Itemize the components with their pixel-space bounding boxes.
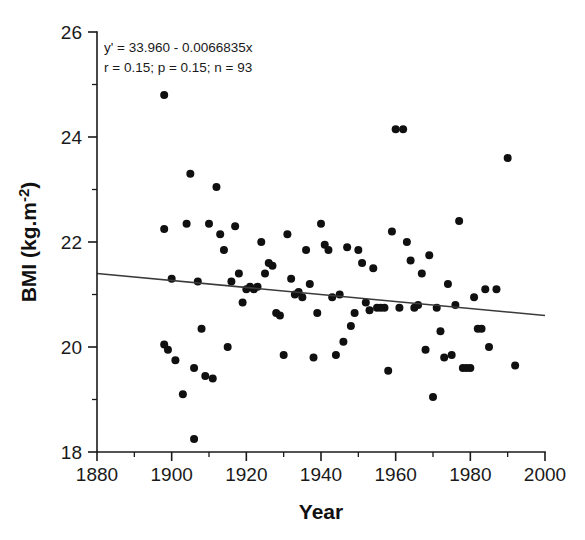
data-point [492,285,500,293]
data-point [343,243,351,251]
data-point [351,309,359,317]
data-point [190,435,198,443]
data-point [212,183,220,191]
data-point [164,346,172,354]
data-point [209,375,217,383]
data-point [205,220,213,228]
data-point [317,220,325,228]
data-point [407,256,415,264]
data-point [380,304,388,312]
data-point [283,230,291,238]
data-point [470,293,478,301]
data-point [429,393,437,401]
data-point [444,280,452,288]
data-point [268,262,276,270]
data-point [239,298,247,306]
data-point [186,170,194,178]
data-point [478,325,486,333]
data-point [227,277,235,285]
data-point [485,343,493,351]
data-point [403,238,411,246]
data-point [369,264,377,272]
data-point [414,301,422,309]
scatter-points-group [160,91,519,443]
x-tick-label: 1920 [225,464,267,485]
data-point [358,259,366,267]
data-point [328,293,336,301]
data-point [395,304,403,312]
y-axis-ticks-group: 1820222426 [61,22,97,463]
x-tick-label: 1980 [449,464,491,485]
chart-canvas: y' = 33.960 - 0.0066835x r = 0.15; p = 0… [0,0,585,540]
data-point [440,354,448,362]
x-tick-label: 1960 [375,464,417,485]
data-point [313,309,321,317]
data-point [511,361,519,369]
data-point [422,346,430,354]
data-point [448,351,456,359]
data-point [425,251,433,259]
data-point [384,367,392,375]
data-point [216,230,224,238]
regression-line [97,274,545,316]
bmi-year-scatter-figure: y' = 33.960 - 0.0066835x r = 0.15; p = 0… [0,0,585,540]
data-point [339,338,347,346]
data-point [481,285,489,293]
y-axis-title-group: BMI (kg.m-2) [15,182,40,303]
data-point [235,270,243,278]
data-point [466,364,474,372]
x-tick-label: 1900 [151,464,193,485]
data-point [194,277,202,285]
y-axis-title: BMI (kg.m-2) [15,182,40,303]
data-point [190,364,198,372]
data-point [324,246,332,254]
data-point [171,356,179,364]
y-tick-label: 26 [61,22,82,43]
data-point [261,270,269,278]
y-tick-label: 24 [61,127,83,148]
x-tick-label: 1880 [76,464,118,485]
data-point [183,220,191,228]
data-point [179,390,187,398]
regression-line-group [97,274,545,316]
data-point [276,312,284,320]
data-point [280,351,288,359]
data-point [399,125,407,133]
data-point [332,351,340,359]
data-point [220,246,228,254]
data-point [392,125,400,133]
data-point [504,154,512,162]
data-point [310,354,318,362]
regression-equation-annotation: y' = 33.960 - 0.0066835x [104,40,253,55]
data-point [198,325,206,333]
data-point [231,222,239,230]
data-point [455,217,463,225]
data-point [388,228,396,236]
data-point [366,306,374,314]
data-point [436,327,444,335]
x-tick-label: 1940 [300,464,342,485]
data-point [224,343,232,351]
y-tick-label: 20 [61,337,82,358]
data-point [160,91,168,99]
y-tick-label: 22 [61,232,82,253]
y-tick-label: 18 [61,442,82,463]
data-point [347,322,355,330]
data-point [354,246,362,254]
data-point [257,238,265,246]
data-point [201,372,209,380]
data-point [306,280,314,288]
x-tick-label: 2000 [524,464,566,485]
annotation-group: y' = 33.960 - 0.0066835x r = 0.15; p = 0… [104,40,253,75]
statistics-annotation: r = 0.15; p = 0.15; n = 93 [104,60,252,75]
data-point [160,225,168,233]
x-axis-ticks-group: 1880190019201940196019802000 [76,452,566,485]
data-point [287,275,295,283]
data-point [418,270,426,278]
data-point [302,246,310,254]
x-axis-title: Year [299,500,343,523]
data-point [298,293,306,301]
